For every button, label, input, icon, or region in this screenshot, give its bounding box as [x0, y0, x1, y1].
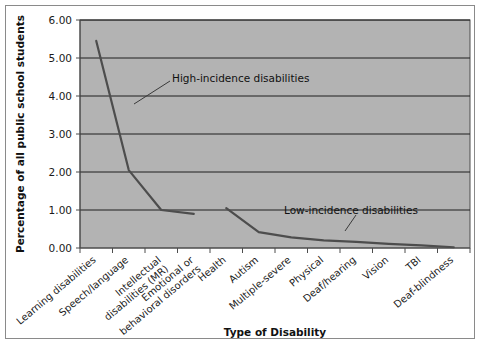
y-axis-tick-label: 2.00	[49, 166, 72, 178]
y-axis-tick-labels: 0.001.002.003.004.005.006.00	[49, 14, 72, 254]
x-axis-ticks	[80, 248, 470, 253]
x-category-label-line: Deaf-blindness	[392, 254, 456, 310]
y-axis-tick-label: 6.00	[49, 14, 72, 26]
y-axis-tick-label: 1.00	[49, 204, 72, 216]
y-axis-title: Percentage of all public school students	[14, 15, 26, 253]
y-axis-tick-label: 5.00	[49, 52, 72, 64]
x-axis-title: Type of Disability	[224, 326, 326, 338]
chart-svg: 0.001.002.003.004.005.006.00 Learning di…	[0, 0, 480, 344]
x-category-label: Vision	[360, 254, 390, 282]
chart-figure: 0.001.002.003.004.005.006.00 Learning di…	[0, 0, 480, 344]
x-category-label: TBI	[403, 254, 423, 273]
x-category-label-line: TBI	[403, 254, 423, 273]
y-axis-ticks	[76, 20, 80, 248]
y-axis-tick-label: 3.00	[49, 128, 72, 140]
y-axis-tick-label: 4.00	[49, 90, 72, 102]
x-axis-category-labels: Learning disabilitiesSpeech/languageInte…	[14, 254, 455, 337]
y-axis-tick-label: 0.00	[49, 242, 72, 254]
annotation-high-incidence: High-incidence disabilities	[172, 72, 309, 84]
x-category-label-line: Vision	[360, 254, 390, 282]
annotation-low-incidence: Low-incidence disabilities	[284, 204, 418, 216]
x-category-label: Deaf-blindness	[392, 254, 456, 310]
